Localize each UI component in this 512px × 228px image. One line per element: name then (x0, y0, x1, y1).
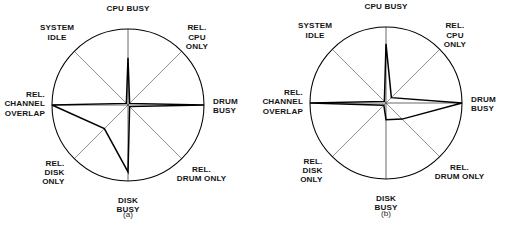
spoke-rel_cpu_only (128, 51, 182, 105)
axis-label-rel_channel_overlap: REL.CHANNELOVERLAP (262, 88, 303, 116)
kiviat-svg-b: CPU BUSYREL.CPUONLYDRUMBUSYREL.DRUM ONLY… (256, 0, 512, 228)
axis-label-drum_busy: DRUMBUSY (213, 97, 238, 115)
chart-b-axis-labels: CPU BUSYREL.CPUONLYDRUMBUSYREL.DRUM ONLY… (262, 2, 496, 212)
axis-label-rel_cpu_only: REL.CPUONLY (186, 23, 209, 51)
spoke-system_idle (332, 49, 386, 103)
axis-label-rel_drum_only: REL.DRUM ONLY (177, 165, 227, 183)
axis-label-drum_busy: DRUMBUSY (471, 95, 496, 113)
chart-b-caption: (b) (381, 209, 391, 218)
kiviat-svg-a: CPU BUSYREL.CPUONLYDRUMBUSYREL.DRUM ONLY… (0, 0, 256, 228)
axis-label-rel_drum_only: REL.DRUM ONLY (435, 163, 485, 181)
axis-label-rel_disk_only: REL.DISKONLY (42, 159, 65, 187)
chart-a-axis-labels: CPU BUSYREL.CPUONLYDRUMBUSYREL.DRUM ONLY… (4, 4, 238, 214)
kiviat-figure: CPU BUSYREL.CPUONLYDRUMBUSYREL.DRUM ONLY… (0, 0, 512, 228)
axis-label-cpu_busy: CPU BUSY (364, 2, 407, 11)
kiviat-chart-a: CPU BUSYREL.CPUONLYDRUMBUSYREL.DRUM ONLY… (0, 0, 256, 228)
spoke-rel_disk_only (74, 105, 128, 159)
axis-label-rel_channel_overlap: REL.CHANNELOVERLAP (4, 90, 45, 118)
axis-label-rel_disk_only: REL.DISKONLY (300, 157, 323, 185)
spoke-system_idle (74, 51, 128, 105)
spoke-rel_cpu_only (386, 49, 440, 103)
spoke-rel_drum_only (128, 105, 182, 159)
axis-label-cpu_busy: CPU BUSY (106, 4, 149, 13)
axis-label-system_idle: SYSTEMIDLE (40, 23, 74, 41)
axis-label-system_idle: SYSTEMIDLE (298, 21, 332, 39)
spoke-rel_disk_only (332, 103, 386, 157)
axis-label-rel_cpu_only: REL.CPUONLY (444, 21, 467, 49)
chart-a-caption: (a) (123, 210, 133, 219)
kiviat-chart-b: CPU BUSYREL.CPUONLYDRUMBUSYREL.DRUM ONLY… (256, 0, 512, 228)
